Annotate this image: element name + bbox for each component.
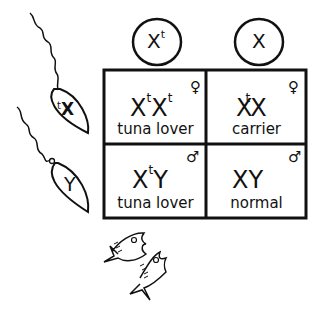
allele-2: X: [151, 94, 167, 122]
phenotype-label: carrier: [208, 120, 305, 138]
fish-icon: [104, 233, 146, 262]
egg-label-xt: Xt: [147, 29, 165, 53]
allele-1-superscript: t: [146, 91, 151, 105]
allele-1: X: [130, 94, 146, 122]
egg-x-letter: X: [252, 29, 266, 53]
male-symbol-icon: ♂: [186, 148, 199, 166]
punnett-cell-xy: XY ♂ normal: [208, 146, 305, 217]
sperm-y-icon: [17, 107, 88, 212]
punnett-cell-xtx: XtX ♀ carrier: [208, 72, 305, 143]
cell-genotype: XtX: [236, 94, 267, 122]
egg-xt-superscript: t: [161, 28, 165, 41]
male-symbol-icon: ♂: [288, 148, 301, 166]
allele-2: Y: [153, 166, 168, 194]
punnett-cell-xtxt: XtXt ♀ tuna lover: [106, 72, 205, 143]
sperm-xt-letter: X: [61, 99, 74, 119]
punnett-cell-xty: XtY ♂ tuna lover: [106, 146, 205, 217]
allele-1: X: [232, 166, 248, 194]
allele-1-superscript: t: [245, 91, 250, 105]
cell-genotype: XtY: [132, 166, 168, 194]
allele-2: X: [250, 94, 266, 122]
allele-1-superscript: t: [148, 163, 153, 177]
female-symbol-icon: ♀: [288, 78, 299, 96]
allele-1: X: [132, 166, 148, 194]
cell-genotype: XtXt: [130, 94, 172, 122]
cell-genotype: XY: [232, 166, 263, 194]
phenotype-label: normal: [208, 194, 305, 212]
sperm-y-letter: Y: [64, 173, 76, 195]
female-symbol-icon: ♀: [190, 78, 201, 96]
allele-2-superscript: t: [168, 91, 173, 105]
sperm-label-xt: tX: [57, 99, 74, 119]
allele-2: Y: [248, 166, 263, 194]
phenotype-label: tuna lover: [106, 194, 205, 212]
egg-label-x: X: [252, 29, 266, 53]
sperm-xt-superscript: t: [57, 100, 61, 111]
egg-xt-letter: X: [147, 29, 161, 53]
sperm-label-y: Y: [64, 173, 76, 195]
phenotype-label: tuna lover: [106, 120, 205, 138]
